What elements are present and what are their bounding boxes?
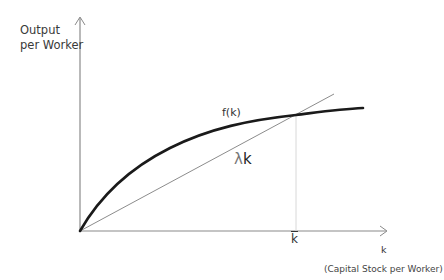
- kbar-label: k: [291, 232, 298, 246]
- y-axis-label: Output per Worker: [20, 23, 83, 53]
- lambda-k-label: λk: [234, 150, 252, 168]
- fk-curve: [80, 108, 363, 231]
- fk-label: f(k): [222, 106, 241, 119]
- y-axis-label-line2: per Worker: [20, 38, 83, 53]
- lambda-k-var: k: [243, 150, 252, 168]
- x-axis-label: (Capital Stock per Worker): [324, 264, 443, 274]
- lambda-symbol: λ: [234, 150, 243, 168]
- x-axis-symbol: k: [381, 244, 387, 255]
- y-axis-label-line1: Output: [20, 23, 83, 38]
